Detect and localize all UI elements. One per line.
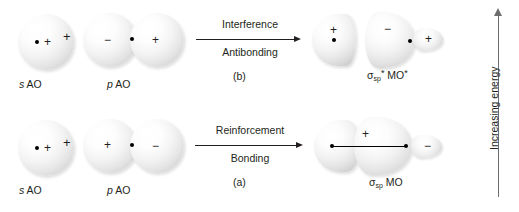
p-ao-caption-rest: AO	[113, 184, 131, 196]
p-atomic-orbital-bonding: + −	[83, 114, 187, 184]
nucleus-dot	[35, 146, 39, 150]
p-ao-caption-rest: AO	[113, 78, 131, 90]
s-ao-caption: s AO	[19, 184, 42, 196]
reaction-arrow-bonding: Reinforcement Bonding	[193, 124, 307, 168]
nucleus-dot-right	[404, 144, 408, 148]
orbital-sign-plus-right: +	[152, 34, 159, 46]
arrow-head-icon	[296, 142, 303, 148]
mo-label-trailing-marker: *	[404, 68, 408, 78]
orbital-sign-plus: +	[44, 36, 51, 48]
orbital-sign-minus: −	[384, 23, 391, 35]
nucleus-dot	[408, 39, 412, 43]
arrow-label-antibonding: Antibonding	[196, 46, 304, 58]
arrow-shaft	[196, 39, 296, 40]
arrow-label-interference: Interference	[196, 18, 304, 30]
arrow-label-bonding: Bonding	[193, 152, 307, 164]
row-bonding: + s AO + + − p AO Reinforcement Bonding …	[0, 106, 470, 212]
panel-letter-a: (a)	[233, 176, 246, 188]
orbital-sign-plus: +	[362, 128, 369, 140]
arrow-head-icon	[294, 36, 301, 42]
operator-plus: +	[63, 30, 71, 43]
arrow-shaft	[195, 145, 298, 146]
orbital-sign-minus-small: −	[424, 140, 431, 152]
panel-letter-b: (b)	[233, 70, 246, 82]
row-antibonding: + s AO + − + p AO Interference Antibondi…	[0, 0, 470, 106]
orbital-sign-plus: +	[330, 24, 337, 36]
operator-plus: +	[63, 136, 71, 149]
internuclear-bond-line	[332, 146, 406, 147]
s-ao-caption: s AO	[19, 78, 42, 90]
s-ao-caption-rest: AO	[24, 78, 42, 90]
sigma-sp-mo: + −	[312, 114, 442, 176]
orbital-sign-plus: +	[44, 142, 51, 154]
p-ao-caption: p AO	[107, 184, 130, 196]
orbital-sign-minus-left: −	[104, 34, 111, 46]
reaction-arrow-antibonding: Interference Antibonding	[196, 18, 304, 62]
p-ao-caption: p AO	[107, 78, 130, 90]
orbital-sign-plus-small: +	[425, 33, 432, 45]
sigma-star-sp-mo: + − +	[312, 8, 442, 70]
mo-label-subscript: sp	[373, 75, 380, 82]
energy-axis: Increasing energy	[470, 0, 519, 212]
nucleus-dot	[130, 37, 134, 41]
sigma-sp-mo-label: σsp MO	[369, 176, 403, 189]
mo-label-rest: MO	[384, 69, 404, 81]
orbital-sign-minus-right: −	[152, 140, 159, 152]
p-atomic-orbital-antibonding: − +	[83, 8, 187, 78]
mo-label-subscript: sp	[375, 182, 382, 189]
nucleus-dot	[35, 40, 39, 44]
mo-formation-figure: + s AO + − + p AO Interference Antibondi…	[0, 0, 519, 212]
nucleus-dot	[130, 143, 134, 147]
nucleus-dot	[332, 38, 336, 42]
nucleus-dot-left	[330, 144, 334, 148]
energy-axis-label: Increasing energy	[488, 67, 500, 150]
sigma-star-sp-mo-label: σsp* MO*	[367, 68, 408, 82]
orbital-sign-plus-left: +	[104, 139, 111, 151]
arrow-label-reinforcement: Reinforcement	[193, 124, 307, 136]
s-ao-caption-rest: AO	[24, 184, 42, 196]
mo-label-rest: MO	[383, 176, 403, 188]
